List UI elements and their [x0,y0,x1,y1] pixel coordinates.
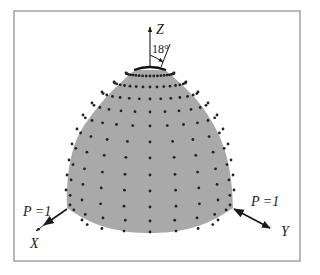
mesh-node [71,143,74,146]
mesh-node [119,83,122,86]
mesh-node [156,86,159,89]
mesh-node [233,189,236,192]
mesh-node [86,151,89,154]
hemispherical-shell [67,70,233,233]
mesh-node [91,119,94,122]
mesh-node [84,116,87,119]
mesh-node [100,187,103,190]
mesh-node [232,174,235,177]
mesh-node [149,157,152,160]
mesh-node [169,85,172,88]
mesh-node [194,154,197,157]
mesh-node [216,114,219,117]
mesh-node [208,135,211,138]
mesh-node [90,135,93,138]
mesh-node [115,123,118,126]
mesh-node [106,138,109,141]
mesh-node [102,92,105,95]
mesh-node [192,94,195,97]
mesh-node [98,106,101,109]
mesh-node [82,183,85,186]
mesh-node [142,86,145,89]
mesh-node [196,121,199,124]
mesh-node [81,219,84,222]
mesh-node [101,227,104,230]
mesh-node [126,140,129,143]
mesh-node [138,97,141,100]
mesh-node [124,173,127,176]
mesh-node [149,220,152,223]
mesh-node [145,75,148,78]
mesh-node [70,179,73,182]
mesh-node [120,109,123,112]
mesh-node [179,83,182,86]
mesh-node [173,72,176,75]
mesh-node [173,219,176,222]
mesh-node [101,121,104,124]
mesh-node [69,204,72,207]
mesh-node [160,74,163,77]
mesh-node [227,143,230,146]
mesh-node [115,83,118,86]
mesh-node [212,151,215,154]
mesh-node [123,205,126,208]
x-axis-label: X [29,236,39,251]
mesh-node [73,209,76,212]
mesh-node [175,205,178,208]
mesh-node [91,102,94,105]
mesh-node [229,204,232,207]
mesh-node [79,132,82,135]
mesh-node [102,217,105,220]
mesh-node [197,91,200,94]
mesh-node [149,86,152,89]
x-load-label: P =1 [22,204,51,219]
mesh-node [225,209,228,212]
y-axis-label: Y [281,224,291,239]
mesh-node [196,171,199,174]
mesh-node [123,84,126,87]
mesh-node [197,227,200,230]
mesh-node [196,217,199,220]
mesh-node [135,85,138,88]
mesh-node [198,202,201,205]
mesh-node [213,213,216,216]
mesh-node [76,128,79,131]
mesh-node [72,163,75,166]
mesh-node [171,140,174,143]
mesh-node [226,163,229,166]
mesh-node [149,98,152,101]
mesh-node [123,230,126,233]
hole-angle-label: 18° [152,42,169,56]
mesh-node [207,119,210,122]
mesh-node [119,96,122,99]
mesh-node [216,183,219,186]
mesh-node [149,111,152,114]
mesh-node [207,102,210,105]
mesh-node [190,108,193,111]
mesh-node [149,75,152,78]
mesh-node [223,147,226,150]
hole-angle-arc [150,55,163,62]
mesh-node [105,94,108,97]
mesh-node [149,190,152,193]
mesh-node [197,187,200,190]
mesh-node [229,194,232,197]
mesh-node [68,159,71,162]
mesh-node [173,156,176,159]
mesh-node [163,74,166,77]
mesh-node [84,213,87,216]
mesh-node [174,189,177,192]
mesh-node [214,167,217,170]
mesh-node [179,96,182,99]
mesh-node [149,174,152,177]
mesh-node [166,74,169,77]
mesh-node [211,223,214,226]
mesh-node [93,104,96,107]
mesh-node [124,219,127,222]
mesh-node [169,97,172,100]
mesh-node [192,138,195,141]
mesh-node [178,109,181,112]
z-axis-label: Z [156,22,164,37]
mesh-node [81,199,84,202]
mesh-node [213,116,216,119]
